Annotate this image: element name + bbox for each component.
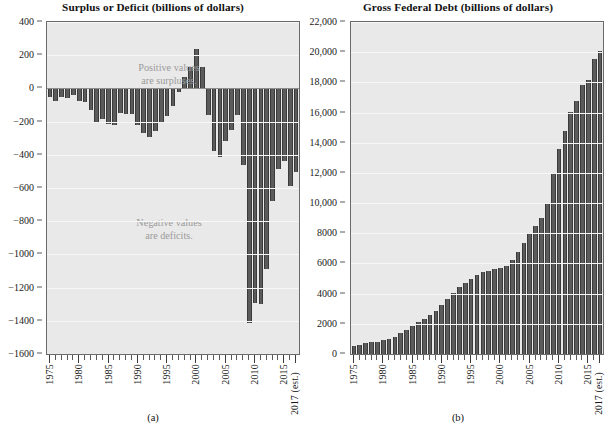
bar bbox=[563, 131, 568, 354]
gridline bbox=[47, 188, 299, 189]
x-axis-minor-tick bbox=[67, 355, 68, 360]
x-axis-minor-tick bbox=[576, 355, 577, 360]
x-axis-major-tick bbox=[587, 355, 588, 363]
x-axis-tick-label: 1995 bbox=[161, 364, 172, 385]
bar bbox=[100, 88, 105, 119]
figure-two-panel-chart: Surplus or Deficit (billions of dollars)… bbox=[0, 0, 611, 429]
y-axis-tick-mark bbox=[340, 322, 345, 323]
gridline bbox=[47, 254, 299, 255]
chart-title-b: Gross Federal Debt (billions of dollars) bbox=[305, 1, 611, 13]
y-axis-tick-mark bbox=[340, 81, 345, 82]
x-axis-minor-tick bbox=[476, 355, 477, 360]
y-axis-tick-label: 6000 bbox=[317, 257, 337, 268]
x-axis-minor-tick bbox=[84, 355, 85, 360]
panel-a-surplus-or-deficit: Surplus or Deficit (billions of dollars)… bbox=[0, 0, 306, 429]
bar bbox=[94, 88, 99, 123]
x-axis-major-tick bbox=[225, 355, 226, 363]
gridline bbox=[47, 22, 299, 23]
x-axis-minor-tick bbox=[154, 355, 155, 360]
bar bbox=[147, 88, 152, 136]
x-axis-minor-tick bbox=[394, 355, 395, 360]
bar bbox=[276, 88, 281, 169]
y-axis-tick-label: 12,000 bbox=[310, 166, 338, 177]
bar-series-b bbox=[351, 22, 603, 354]
bar bbox=[533, 226, 538, 354]
x-axis-major-tick bbox=[529, 355, 530, 363]
bar bbox=[352, 346, 357, 354]
y-axis-tick-mark bbox=[37, 187, 42, 188]
x-axis-major-tick bbox=[353, 355, 354, 363]
plot-area-a: Positive values are surpluses. Negative … bbox=[46, 21, 300, 355]
bar bbox=[212, 88, 217, 151]
x-axis-tick-label: 2010 bbox=[249, 364, 260, 385]
y-axis-tick-label: −1200 bbox=[8, 281, 34, 292]
x-axis-minor-tick bbox=[277, 355, 278, 360]
bar bbox=[106, 88, 111, 123]
gridline bbox=[47, 288, 299, 289]
x-axis-minor-tick bbox=[540, 355, 541, 360]
x-axis-minor-tick bbox=[523, 355, 524, 360]
x-axis-major-tick bbox=[49, 355, 50, 363]
x-axis-tick-label: 2017 (est.) bbox=[594, 372, 604, 415]
bar bbox=[288, 88, 293, 185]
x-axis-minor-tick bbox=[55, 355, 56, 360]
negative-values-note-line2: are deficits. bbox=[109, 230, 229, 243]
x-axis-major-tick bbox=[558, 355, 559, 363]
bar bbox=[445, 299, 450, 354]
y-axis-tick-mark bbox=[340, 232, 345, 233]
x-axis-minor-tick bbox=[371, 355, 372, 360]
bar bbox=[510, 260, 515, 354]
x-axis-minor-tick bbox=[570, 355, 571, 360]
bar bbox=[498, 268, 503, 354]
x-axis-major-tick bbox=[470, 355, 471, 363]
bar bbox=[398, 333, 403, 354]
x-axis-tick-label: 2000 bbox=[494, 364, 505, 385]
y-axis-tick-mark bbox=[340, 171, 345, 172]
bar bbox=[294, 88, 299, 171]
gridline bbox=[351, 263, 603, 264]
y-axis-tick-mark bbox=[37, 353, 42, 354]
y-axis-tick-label: −1000 bbox=[8, 248, 34, 259]
y-axis-tick-label: 22,000 bbox=[310, 16, 338, 27]
bar bbox=[141, 88, 146, 133]
x-axis-minor-tick bbox=[593, 355, 594, 360]
x-axis-minor-tick bbox=[149, 355, 150, 360]
y-axis-labels-b: 22,00020,00018,00016,00014,00012,00010,0… bbox=[305, 21, 345, 355]
bar bbox=[504, 266, 509, 354]
y-axis-labels-a: 4002000−200−400−600−800−1000−1200−1400−1… bbox=[0, 21, 42, 355]
x-axis-major-tick bbox=[599, 355, 600, 363]
x-axis-minor-tick bbox=[546, 355, 547, 360]
x-axis-tick-label: 2005 bbox=[524, 364, 535, 385]
gridline bbox=[47, 155, 299, 156]
bar bbox=[48, 88, 53, 97]
gridline bbox=[351, 22, 603, 23]
bar bbox=[522, 243, 527, 354]
x-axis-tick-label: 1990 bbox=[132, 364, 143, 385]
x-axis-minor-tick bbox=[272, 355, 273, 360]
y-axis-tick-label: 14,000 bbox=[310, 136, 338, 147]
x-axis-minor-tick bbox=[564, 355, 565, 360]
x-axis-minor-tick bbox=[72, 355, 73, 360]
gridline bbox=[351, 52, 603, 53]
x-axis-major-tick bbox=[441, 355, 442, 363]
gridline bbox=[351, 173, 603, 174]
x-axis-minor-tick bbox=[260, 355, 261, 360]
x-axis-minor-tick bbox=[376, 355, 377, 360]
bar bbox=[375, 342, 380, 354]
bar bbox=[282, 88, 287, 161]
bar bbox=[574, 101, 579, 354]
y-axis-tick-label: 4000 bbox=[317, 287, 337, 298]
gridline bbox=[47, 321, 299, 322]
chart-title-a: Surplus or Deficit (billions of dollars) bbox=[0, 1, 306, 13]
y-axis-tick-mark bbox=[340, 51, 345, 52]
x-axis-minor-tick bbox=[482, 355, 483, 360]
x-axis-minor-tick bbox=[517, 355, 518, 360]
x-axis-minor-tick bbox=[447, 355, 448, 360]
x-axis-tick-label: 2015 bbox=[582, 364, 593, 385]
y-axis-tick-mark bbox=[37, 319, 42, 320]
x-axis-minor-tick bbox=[511, 355, 512, 360]
x-axis-minor-tick bbox=[365, 355, 366, 360]
y-axis-tick-label: 2000 bbox=[317, 317, 337, 328]
bar bbox=[369, 342, 374, 354]
x-axis-major-tick bbox=[283, 355, 284, 363]
